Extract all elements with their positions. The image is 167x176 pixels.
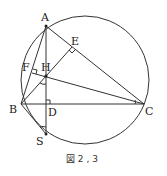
geometry-diagram: A E F H B D C S 図 2 , 3 <box>0 0 167 176</box>
label-a: A <box>40 11 50 24</box>
label-f: F <box>22 61 30 74</box>
point-h <box>44 74 47 77</box>
figure-caption: 図 2 , 3 <box>66 154 98 164</box>
angle-mark-c <box>135 100 136 104</box>
side-ca <box>46 26 144 104</box>
label-s: S <box>36 135 44 148</box>
figure-diagram: A E F H B D C S 図 2 , 3 <box>0 0 167 176</box>
label-h: H <box>41 61 51 74</box>
right-angle-d <box>46 100 50 104</box>
label-d: D <box>48 106 57 119</box>
point-s <box>45 133 48 136</box>
altitude-cf <box>32 73 144 104</box>
right-angle-e <box>69 50 75 53</box>
point-a <box>45 25 48 28</box>
circumcircle <box>21 16 149 144</box>
label-b: B <box>9 103 17 116</box>
segment-bs <box>21 104 46 134</box>
label-e: E <box>71 35 79 48</box>
angle-mark-h <box>40 83 46 84</box>
label-c: C <box>145 105 153 118</box>
angle-mark-s <box>40 127 46 128</box>
